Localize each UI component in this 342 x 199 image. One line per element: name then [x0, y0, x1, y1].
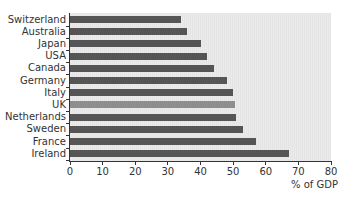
category-label: Netherlands: [5, 111, 66, 123]
x-tick-label: 30: [158, 166, 178, 178]
category-label: Canada: [28, 62, 66, 74]
x-tick-label: 10: [93, 166, 113, 178]
horizontal-bar-chart: SwitzerlandAustraliaJapanUSACanadaGerman…: [0, 0, 342, 199]
bar-usa: [70, 53, 207, 60]
bar-france: [70, 138, 256, 145]
category-label: Japan: [38, 38, 66, 50]
category-label: Germany: [20, 75, 66, 87]
category-label: UK: [52, 99, 66, 111]
y-axis-line: [69, 13, 70, 162]
x-tick: [298, 161, 299, 165]
category-label: USA: [45, 50, 66, 62]
category-label: France: [33, 136, 66, 148]
x-tick-label: 50: [223, 166, 243, 178]
category-label: Italy: [44, 87, 66, 99]
bar-germany: [70, 77, 227, 84]
x-tick-label: 20: [125, 166, 145, 178]
x-tick: [70, 161, 71, 165]
x-tick: [135, 161, 136, 165]
x-tick-label: 70: [288, 166, 308, 178]
bar-sweden: [70, 126, 243, 133]
bar-canada: [70, 65, 214, 72]
x-tick-label: 0: [60, 166, 80, 178]
bar-japan: [70, 40, 201, 47]
x-axis-title: % of GDP: [291, 179, 338, 191]
bar-italy: [70, 89, 233, 96]
x-tick-label: 60: [256, 166, 276, 178]
category-label: Australia: [22, 26, 66, 38]
x-tick: [102, 161, 103, 165]
category-label: Switzerland: [8, 14, 66, 26]
bar-switzerland: [70, 16, 181, 23]
bar-ireland: [70, 150, 289, 157]
x-tick: [233, 161, 234, 165]
x-tick: [167, 161, 168, 165]
x-tick: [200, 161, 201, 165]
x-tick-label: 40: [191, 166, 211, 178]
x-tick: [265, 161, 266, 165]
x-tick: [331, 161, 332, 165]
bar-australia: [70, 28, 187, 35]
bar-netherlands: [70, 114, 236, 121]
bar-uk: [70, 101, 235, 108]
x-tick-label: 80: [321, 166, 341, 178]
category-label: Sweden: [26, 123, 66, 135]
category-label: Ireland: [31, 148, 66, 160]
